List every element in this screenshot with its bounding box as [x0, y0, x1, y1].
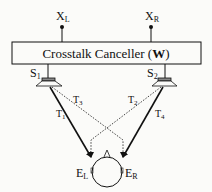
svg-text:T2: T2 [128, 94, 138, 107]
crosstalk-diagram: XL XR Crosstalk Canceller (W) S1 S2 T1 T… [0, 0, 212, 192]
input-right: XR [145, 9, 160, 42]
svg-text:XR: XR [145, 9, 160, 24]
svg-text:ER: ER [125, 166, 138, 181]
speaker-icon [42, 78, 55, 81]
svg-text:EL: EL [76, 166, 88, 181]
input-left: XL [56, 9, 70, 42]
speaker-icon [158, 78, 171, 81]
crosstalk-canceller-box: Crosstalk Canceller (W) [12, 42, 201, 64]
speaker-left: S1 [30, 64, 62, 86]
svg-text:S1: S1 [30, 66, 41, 81]
listener-head: EL ER [76, 150, 138, 187]
svg-text:T3: T3 [73, 94, 83, 107]
svg-text:T1: T1 [56, 108, 66, 121]
transfer-paths: T1 T2 T3 T4 [50, 87, 165, 157]
svg-text:T4: T4 [155, 108, 165, 121]
path-t2 [91, 87, 161, 157]
svg-text:S2: S2 [147, 66, 158, 81]
nose-icon [104, 150, 110, 157]
svg-text:XL: XL [56, 9, 70, 24]
path-t3 [52, 87, 123, 157]
speaker-right: S2 [147, 64, 177, 86]
path-t1 [50, 87, 91, 157]
svg-text:Crosstalk Canceller (W): Crosstalk Canceller (W) [42, 46, 169, 61]
